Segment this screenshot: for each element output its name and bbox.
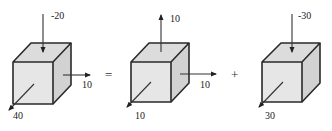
- cube3-depth-label: 30: [265, 110, 275, 121]
- cube1-vertical-label: -20: [51, 10, 64, 21]
- cube1-depth-label: 40: [13, 110, 23, 121]
- cube2-vertical-label: 10: [170, 13, 180, 24]
- cube3-vertical-label: -30: [298, 10, 311, 21]
- equals-operator: =: [105, 67, 112, 82]
- cube-original: [13, 43, 71, 104]
- cube2-horizontal-label: 10: [200, 79, 210, 90]
- cube-deviatoric: [262, 43, 320, 102]
- plus-operator: +: [231, 67, 238, 82]
- cube2-depth-label: 10: [135, 110, 145, 121]
- cube1-horizontal-label: 10: [82, 79, 92, 90]
- stress-decomposition-diagram: -20 10 40 = 10 10 10 + -30 30: [0, 0, 332, 131]
